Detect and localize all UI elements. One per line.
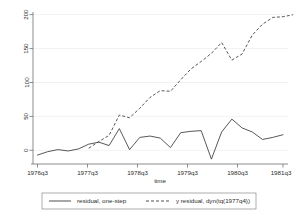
- x-axis-title: time: [154, 177, 166, 184]
- y-tick-label-150: 150: [23, 43, 30, 54]
- legend-label-dyn: y residual, dyn(tq(1977q4)): [176, 197, 250, 204]
- chart-screenshot: 200 150 100 50 0 1976q3 1977q3 1978q3 19…: [0, 0, 298, 219]
- y-tick-label-50: 50: [23, 112, 30, 119]
- chart-canvas: 200 150 100 50 0 1976q3 1977q3 1978q3 19…: [0, 0, 298, 219]
- x-tick-label-1980q3: 1980q3: [227, 169, 248, 176]
- y-tick-label-200: 200: [23, 9, 30, 20]
- legend-label-one-step: residual, one-step: [77, 197, 127, 204]
- y-tick-label-0: 0: [23, 148, 30, 152]
- x-tick-label-1979q3: 1979q3: [177, 169, 198, 176]
- x-tick-label-1978q3: 1978q3: [127, 169, 148, 176]
- x-tick-label-1976q3: 1976q3: [27, 169, 48, 176]
- x-tick-label-1981q3: 1981q3: [271, 169, 292, 176]
- page-background: [0, 0, 298, 219]
- x-tick-label-1977q3: 1977q3: [77, 169, 98, 176]
- y-tick-label-100: 100: [23, 77, 30, 88]
